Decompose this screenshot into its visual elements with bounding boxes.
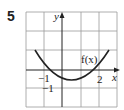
parabola-chart: y x f(x) −1 −1 2	[0, 0, 124, 110]
y-axis-arrow-icon	[60, 12, 65, 18]
function-label: f(x)	[81, 53, 98, 66]
axes	[26, 15, 117, 107]
y-tick-neg1: −1	[42, 82, 54, 94]
x-axis-label: x	[111, 71, 117, 83]
y-axis-label: y	[53, 10, 59, 22]
x-tick-2: 2	[97, 73, 103, 85]
